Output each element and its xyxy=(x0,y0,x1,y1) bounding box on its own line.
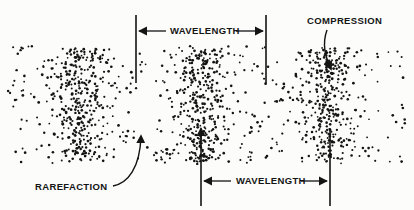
particle-dot xyxy=(304,123,306,125)
particle-dot xyxy=(216,136,218,138)
particle-dot xyxy=(399,65,401,67)
particle-dot xyxy=(162,80,164,82)
particle-dot xyxy=(185,128,187,130)
particle-dot xyxy=(20,161,23,164)
particle-dot xyxy=(60,78,62,80)
particle-dot xyxy=(377,149,379,151)
particle-dot xyxy=(190,84,192,86)
particle-dot xyxy=(299,52,302,55)
particle-dot xyxy=(179,90,181,92)
particle-dot xyxy=(331,145,333,147)
particle-dot xyxy=(306,59,308,61)
particle-dot xyxy=(12,84,14,86)
particle-dot xyxy=(395,121,398,124)
particle-dot xyxy=(323,56,326,59)
particle-dot xyxy=(76,50,78,52)
particle-dot xyxy=(174,64,176,66)
particle-dot xyxy=(347,98,349,100)
particle-dot xyxy=(96,158,98,160)
particle-dot xyxy=(90,64,92,66)
particle-dot xyxy=(94,48,97,51)
particle-dot xyxy=(324,87,326,89)
particle-dot xyxy=(131,77,133,79)
particle-dot xyxy=(98,119,100,121)
particle-dot xyxy=(315,77,317,79)
particle-dot xyxy=(75,105,78,108)
particle-dot xyxy=(83,101,85,103)
particle-dot xyxy=(396,50,398,52)
particle-dot xyxy=(329,112,331,114)
particle-dot xyxy=(84,99,86,101)
particle-dot xyxy=(401,127,403,129)
particle-dot xyxy=(191,59,194,62)
particle-dot xyxy=(195,119,197,121)
particle-dot xyxy=(206,108,208,110)
particle-dot xyxy=(72,141,75,144)
particle-dot xyxy=(329,48,331,50)
particle-dot xyxy=(203,130,206,133)
particle-dot xyxy=(351,118,353,120)
particle-dot xyxy=(289,96,292,99)
particle-dot xyxy=(185,159,187,161)
particle-dot xyxy=(371,69,373,71)
particle-dot xyxy=(220,57,222,59)
particle-dot xyxy=(339,56,341,58)
particle-dot xyxy=(342,83,345,86)
particle-dot xyxy=(223,139,225,141)
particle-dot xyxy=(325,66,328,69)
particle-dot xyxy=(216,139,218,141)
particle-dot xyxy=(83,51,85,53)
particle-dot xyxy=(278,150,280,152)
particle-dot xyxy=(389,161,391,163)
particle-dot xyxy=(92,110,94,112)
particle-dot xyxy=(81,129,84,132)
particle-dot xyxy=(81,153,83,155)
particle-dot xyxy=(94,99,96,101)
particle-dot xyxy=(294,121,297,124)
particle-dot xyxy=(61,132,63,134)
particle-dot xyxy=(335,108,337,110)
particle-dot xyxy=(340,97,342,99)
particle-dot xyxy=(283,86,285,88)
particle-dot xyxy=(80,78,82,80)
particle-dot xyxy=(362,147,365,150)
particle-dot xyxy=(346,51,348,53)
particle-dot xyxy=(192,107,195,110)
particle-dot xyxy=(215,126,218,129)
particle-dot xyxy=(209,108,211,110)
particle-dot xyxy=(323,153,325,155)
particle-dot xyxy=(357,125,359,127)
particle-dot xyxy=(368,118,370,120)
particle-dot xyxy=(301,157,304,160)
particle-dot xyxy=(79,130,81,132)
particle-dot xyxy=(213,96,215,98)
particle-dot xyxy=(103,96,105,98)
particle-dot xyxy=(328,70,330,72)
particle-dot xyxy=(47,156,50,159)
particle-dot xyxy=(196,148,198,150)
particle-dot xyxy=(70,124,72,126)
particle-dot xyxy=(341,157,343,159)
particle-dot xyxy=(169,157,171,159)
particle-dot xyxy=(281,150,283,152)
particle-dot xyxy=(309,91,311,93)
particle-dot xyxy=(99,58,102,61)
particle-dot xyxy=(196,163,198,165)
particle-dot xyxy=(107,122,109,124)
particle-dot xyxy=(281,132,283,134)
particle-dot xyxy=(239,54,241,56)
particle-dot xyxy=(61,120,63,122)
particle-dot xyxy=(81,55,83,57)
particle-dot xyxy=(56,115,58,117)
particle-dot xyxy=(364,150,367,153)
particle-dot xyxy=(338,70,340,72)
particle-dot xyxy=(183,79,186,82)
particle-dot xyxy=(387,136,389,138)
particle-dot xyxy=(251,70,253,72)
particle-dot xyxy=(119,136,121,138)
particle-dot xyxy=(221,55,224,58)
particle-dot xyxy=(339,158,341,160)
particle-dot xyxy=(200,112,202,114)
particle-dot xyxy=(185,60,187,62)
particle-dot xyxy=(192,47,194,49)
